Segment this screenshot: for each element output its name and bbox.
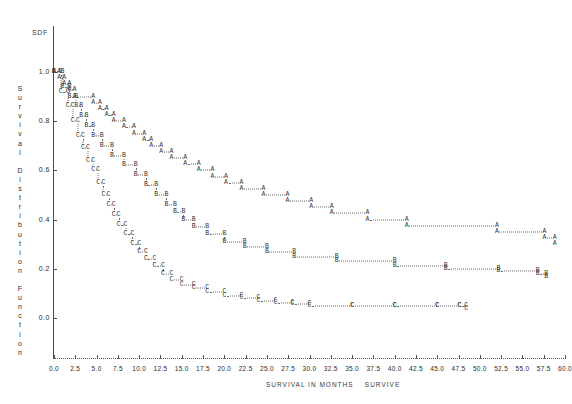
step-horizontal-segment	[314, 207, 329, 208]
data-point-marker: C	[205, 289, 209, 296]
data-point-marker: A	[170, 155, 174, 162]
data-point-marker: B	[243, 243, 247, 250]
x-tick-mark	[246, 355, 247, 359]
data-point-marker: C	[144, 256, 148, 263]
x-tick-mark	[54, 355, 55, 359]
x-tick-label: 37.5	[366, 365, 380, 372]
x-tick-mark	[203, 355, 204, 359]
step-horizontal-segment	[261, 300, 273, 301]
data-point-marker: A	[91, 100, 95, 107]
x-tick-mark	[352, 355, 353, 359]
data-point-marker: C	[137, 248, 141, 255]
step-horizontal-segment	[334, 213, 365, 214]
data-point-marker: A	[210, 173, 214, 180]
data-point-marker: C	[107, 202, 111, 209]
y-tick-label: 0.4	[10, 216, 50, 223]
data-point-marker: A	[112, 118, 116, 125]
x-tick-label: 32.5	[324, 365, 338, 372]
data-point-marker: C	[66, 103, 70, 110]
data-point-marker: C	[192, 285, 196, 292]
data-point-marker: B	[497, 268, 501, 275]
step-horizontal-segment	[244, 298, 256, 299]
step-horizontal-segment	[188, 164, 197, 165]
data-point-marker: C	[350, 302, 354, 309]
data-point-marker: C	[239, 295, 243, 302]
step-horizontal-segment	[177, 212, 181, 213]
y-axis-line	[53, 26, 54, 358]
x-tick-label: 27.5	[281, 365, 295, 372]
step-horizontal-segment	[247, 246, 264, 247]
data-point-marker: B	[122, 162, 126, 169]
data-point-marker: A	[197, 167, 201, 174]
data-point-marker: B	[192, 224, 196, 231]
step-horizontal-segment	[339, 261, 392, 262]
data-point-marker: C	[91, 167, 95, 174]
y-tick-mark	[53, 269, 57, 270]
data-point-marker: A	[239, 186, 243, 193]
y-tick-mark	[53, 170, 57, 171]
x-tick-label: 12.5	[154, 365, 168, 372]
y-tick-mark	[53, 72, 57, 73]
step-horizontal-segment	[116, 121, 121, 122]
data-point-marker: B	[91, 133, 95, 140]
x-tick-mark	[97, 355, 98, 359]
x-tick-label: 7.5	[113, 365, 123, 372]
x-tick-label: 57.5	[537, 365, 551, 372]
data-point-marker: B	[173, 209, 177, 216]
step-horizontal-segment	[227, 241, 242, 242]
y-tick-mark	[53, 220, 57, 221]
x-tick-mark	[459, 355, 460, 359]
x-tick-mark	[544, 355, 545, 359]
data-point-marker: A	[122, 124, 126, 131]
step-horizontal-segment	[148, 185, 153, 186]
data-point-marker: C	[86, 157, 90, 164]
data-point-marker: B	[292, 253, 296, 260]
data-point-marker: A	[224, 179, 228, 186]
data-point-marker: B	[110, 152, 114, 159]
x-tick-mark	[373, 355, 374, 359]
step-horizontal-segment	[290, 201, 309, 202]
data-point-marker: A	[183, 161, 187, 168]
x-tick-mark	[160, 355, 161, 359]
x-tick-mark	[118, 355, 119, 359]
y-tick-label: 0.8	[10, 117, 50, 124]
step-horizontal-segment	[312, 305, 350, 306]
step-horizontal-segment	[169, 204, 173, 205]
x-tick-mark	[565, 355, 566, 359]
step-horizontal-segment	[409, 225, 494, 226]
x-tick-label: 47.5	[452, 365, 466, 372]
data-point-marker: C	[170, 277, 174, 284]
step-horizontal-segment	[104, 145, 109, 146]
data-point-marker: B	[182, 216, 186, 223]
data-point-marker: C	[291, 301, 295, 308]
data-point-marker: C	[393, 302, 397, 309]
step-horizontal-segment	[96, 135, 100, 136]
data-point-marker: A	[105, 112, 109, 119]
x-tick-mark	[395, 355, 396, 359]
data-point-marker: C	[101, 192, 105, 199]
data-point-marker: C	[130, 241, 134, 248]
step-horizontal-segment	[210, 292, 222, 293]
step-horizontal-segment	[229, 182, 239, 183]
data-point-marker: C	[153, 263, 157, 270]
step-horizontal-segment	[174, 158, 183, 159]
x-axis-tick-labels: 0.02.55.07.510.012.515.017.520.022.525.0…	[0, 365, 571, 377]
step-horizontal-segment	[114, 155, 121, 156]
step-horizontal-segment	[297, 256, 335, 257]
y-tick-label: 0.0	[10, 314, 50, 321]
step-horizontal-segment	[397, 305, 435, 306]
step-horizontal-segment	[126, 127, 131, 128]
x-tick-mark	[288, 355, 289, 359]
x-tick-label: 15.0	[175, 365, 189, 372]
step-horizontal-segment	[138, 175, 143, 176]
x-tick-mark	[310, 355, 311, 359]
data-point-marker: A	[285, 198, 289, 205]
x-tick-label: 5.0	[92, 365, 102, 372]
data-point-marker: C	[161, 270, 165, 277]
step-horizontal-segment	[501, 271, 535, 272]
step-horizontal-segment	[210, 234, 222, 235]
data-point-marker: A	[543, 235, 547, 242]
data-point-marker: B	[205, 231, 209, 238]
x-tick-mark	[416, 355, 417, 359]
